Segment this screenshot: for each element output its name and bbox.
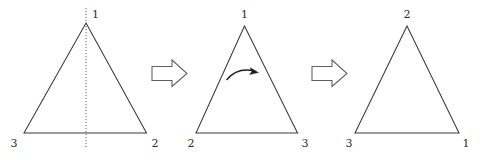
triangle-1-bottom-right-label: 2: [152, 137, 159, 150]
triangle-2-rotation-arrow-head-icon: [250, 68, 259, 75]
triangle-1-apex-label: 1: [92, 8, 99, 21]
triangle-3-bottom-right-label: 1: [463, 137, 470, 150]
triangle-3-bottom-left-label: 3: [346, 137, 353, 150]
triangle-1-group: 1 3 2: [11, 8, 159, 150]
step-arrow-2-group: [312, 60, 347, 87]
figure-canvas: 1 3 2 1 2 3 2 3 1: [0, 0, 491, 160]
triangle-2-bottom-left-label: 2: [188, 137, 195, 150]
triangle-2-apex-label: 1: [241, 8, 248, 21]
triangle-3-group: 2 3 1: [346, 8, 470, 150]
step-arrow-1-right-arrow-icon: [152, 60, 187, 87]
step-arrow-1-group: [152, 60, 187, 87]
triangle-sequence-figure: 1 3 2 1 2 3 2 3 1: [0, 0, 491, 160]
triangle-1-outline: [24, 23, 147, 133]
triangle-3-outline: [355, 26, 459, 133]
triangle-1-bottom-left-label: 3: [11, 137, 18, 150]
triangle-2-bottom-right-label: 3: [302, 137, 309, 150]
triangle-3-apex-label: 2: [404, 8, 411, 21]
step-arrow-2-right-arrow-icon: [312, 60, 347, 87]
triangle-2-outline: [196, 26, 298, 133]
triangle-2-group: 1 2 3: [188, 8, 309, 150]
